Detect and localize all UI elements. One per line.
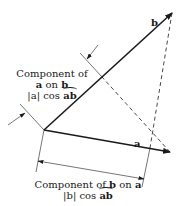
- extension-line-origin-b: [20, 104, 44, 130]
- diagram-graphics: [0, 0, 183, 206]
- vector-projection-diagram: b a Component of a on b |a| cos ab Compo…: [0, 0, 183, 206]
- angle-ab-symbol: ab: [99, 190, 112, 201]
- component-a-on-b-line2: a on b: [16, 79, 88, 90]
- component-a-on-b-label: Component of a on b |a| cos ab: [16, 68, 88, 101]
- dimension-arrow-upper: [87, 45, 98, 59]
- component-b-on-a-label: Component of b on a |b| cos ab: [28, 179, 148, 201]
- component-b-on-a-line2: |b| cos ab: [28, 190, 148, 201]
- component-a-on-b-line3: |a| cos ab: [16, 90, 88, 101]
- component-a-on-b-line1: Component of: [16, 68, 88, 79]
- dimension-line-b-on-a: [38, 161, 144, 179]
- vector-a-label: a: [134, 138, 140, 149]
- dimension-arrow-lower: [8, 113, 25, 125]
- dashed-perpendicular-b-to-a: [150, 13, 172, 148]
- vector-b-label: b: [151, 17, 158, 28]
- angle-ab-symbol: ab: [63, 90, 76, 101]
- component-b-on-a-line1: Component of b on a: [28, 179, 148, 190]
- extension-line-origin-a: [36, 130, 44, 172]
